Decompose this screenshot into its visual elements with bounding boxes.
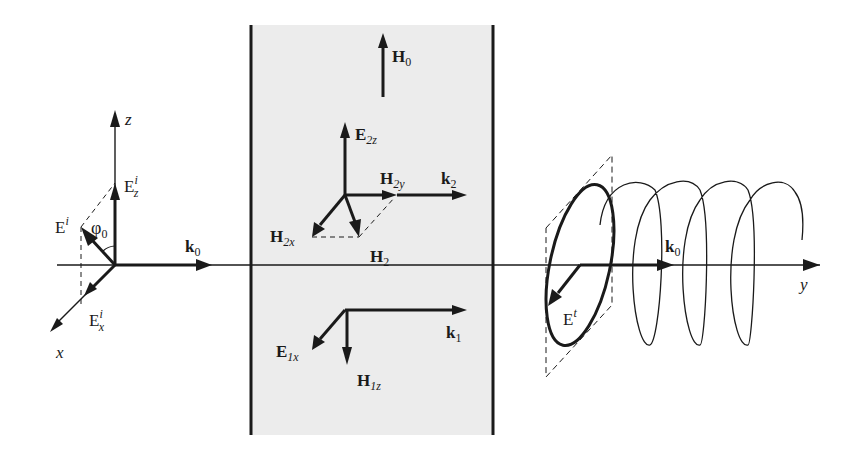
k0-arrowhead-incident xyxy=(196,259,212,271)
phi0-label: φ0 xyxy=(91,218,107,241)
wave-diagram: z Eiz Ei φ0 k0 Eix x H0 xyxy=(0,0,858,457)
magnetized-slab xyxy=(251,25,493,435)
E-t-label: Et xyxy=(563,306,577,329)
E-x-incident-label: Eix xyxy=(89,307,105,334)
x-axis-arrowhead xyxy=(50,318,63,332)
incident-wave-group xyxy=(50,110,212,332)
z-axis-arrowhead xyxy=(110,110,120,127)
y-axis-label: y xyxy=(798,275,808,294)
k0-incident-label: k0 xyxy=(185,237,200,259)
phi-angle-arc xyxy=(103,246,115,251)
z-axis-label: z xyxy=(124,110,132,129)
transmitted-wave-group xyxy=(534,155,803,377)
E-z-incident-label: Eiz xyxy=(124,173,139,200)
E-i-incident-label: Ei xyxy=(55,214,69,237)
x-axis-label: x xyxy=(55,343,64,362)
helix-curve xyxy=(600,181,803,345)
k0-transmitted-label: k0 xyxy=(665,237,680,259)
y-axis-arrowhead xyxy=(803,259,820,271)
